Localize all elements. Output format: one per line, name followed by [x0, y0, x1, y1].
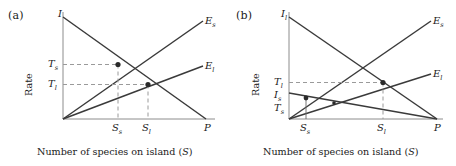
x-axis-caption-suffix: ) [189, 146, 193, 157]
species-small-tick: Ss [112, 123, 122, 133]
figure-island-biogeography: (a) Rate I Es El Ts [0, 0, 456, 166]
species-large-tick: Sl [142, 123, 151, 133]
x-axis-caption-prefix: Number of species on island ( [37, 146, 182, 157]
extinction-large-label: El [205, 61, 214, 71]
equilibrium-point-small [304, 96, 309, 101]
immigration-small-tick: Is [274, 90, 281, 100]
secondary-crossing-point [332, 101, 336, 105]
turnover-small-tick: Ts [274, 103, 284, 113]
extinction-small-label: Es [205, 16, 216, 26]
x-axis-caption-var: S [408, 146, 415, 157]
extinction-curve-Es [63, 21, 203, 119]
turnover-large-tick: Tl [48, 79, 57, 89]
turnover-small-tick: Ts [48, 59, 58, 69]
panel-b: (b) Rate Il Es [228, 0, 456, 166]
extinction-small-label: Es [433, 16, 444, 26]
y-axis-label: Rate [24, 73, 34, 96]
equilibrium-point-small [115, 62, 120, 67]
equilibrium-point-large [145, 82, 150, 87]
x-axis-caption: Number of species on island (S) [263, 147, 419, 157]
extinction-curve-Es [289, 21, 431, 119]
x-axis-caption-var: S [182, 146, 189, 157]
turnover-large-tick: Tl [274, 77, 283, 87]
immigration-curve-Is [289, 93, 437, 119]
panel-a: (a) Rate I Es El Ts [0, 0, 228, 166]
x-axis-caption-prefix: Number of species on island ( [263, 146, 408, 157]
species-pool-label: P [434, 123, 441, 133]
y-axis-label: Rate [251, 73, 261, 96]
immigration-large-label: Il [281, 9, 287, 19]
extinction-large-label: El [433, 69, 442, 79]
panel-a-plot [0, 0, 228, 166]
species-large-tick: Sl [377, 123, 386, 133]
panel-b-plot [228, 0, 456, 166]
species-pool-label: P [204, 123, 211, 133]
immigration-start-label: I [58, 9, 62, 19]
equilibrium-point-large [380, 80, 385, 85]
x-axis-caption: Number of species on island (S) [37, 147, 193, 157]
x-axis-caption-suffix: ) [415, 146, 419, 157]
species-small-tick: Ss [300, 123, 310, 133]
extinction-curve-El [63, 66, 203, 119]
